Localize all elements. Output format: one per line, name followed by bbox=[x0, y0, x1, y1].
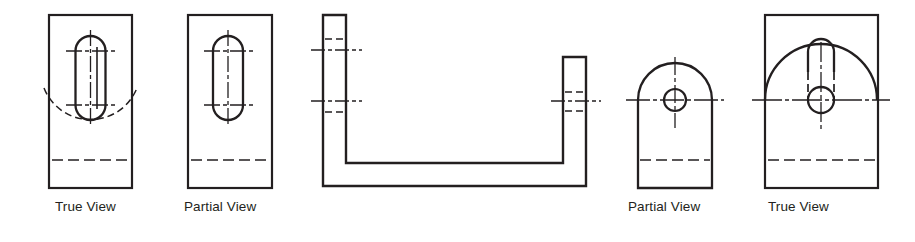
caption-partial-view-left: Partial View bbox=[184, 199, 256, 214]
figure-partial-view-right bbox=[626, 57, 724, 188]
caption-true-view-right: True View bbox=[768, 199, 829, 214]
outline-rectangle bbox=[765, 15, 878, 188]
caption-true-view-left: True View bbox=[55, 199, 116, 214]
caption-partial-view-right: Partial View bbox=[628, 199, 700, 214]
figure-true-view-left bbox=[44, 15, 137, 188]
figure-partial-view-left bbox=[188, 15, 272, 188]
channel-outline bbox=[323, 15, 586, 186]
outline-rectangle bbox=[188, 15, 272, 188]
figure-true-view-right bbox=[752, 15, 890, 188]
figure-channel-front-view bbox=[311, 15, 601, 186]
drawing-canvas: True View Partial View Partial View True… bbox=[0, 0, 915, 242]
